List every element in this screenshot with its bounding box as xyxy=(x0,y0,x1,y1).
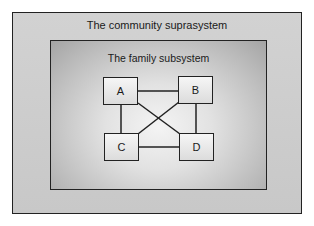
node-d: D xyxy=(179,133,214,161)
node-a-label: A xyxy=(117,85,124,97)
node-c: C xyxy=(104,133,139,161)
connection-lines xyxy=(0,0,314,226)
node-c-label: C xyxy=(118,141,126,153)
node-b-label: B xyxy=(192,84,199,96)
node-b: B xyxy=(178,76,213,104)
node-a: A xyxy=(103,77,138,105)
node-d-label: D xyxy=(193,141,201,153)
